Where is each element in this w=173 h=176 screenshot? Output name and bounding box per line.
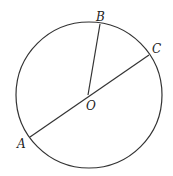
diameter-ac [30,55,149,137]
label-c: C [152,42,161,56]
label-b: B [95,10,105,24]
radius-ob [88,24,100,95]
circle-diagram: A B C O [0,0,173,176]
label-a: A [16,137,26,151]
circle [16,22,162,168]
label-o: O [86,99,96,113]
